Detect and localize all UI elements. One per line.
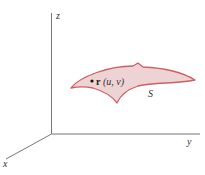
surface-diagram: z y x r (u, v) S — [0, 0, 205, 175]
x-axis-label: x — [2, 158, 8, 169]
x-axis — [6, 134, 52, 159]
z-axis-label: z — [55, 10, 60, 21]
point-marker — [90, 79, 93, 82]
vector-r-label: r — [96, 76, 101, 87]
y-axis-label: y — [186, 136, 192, 147]
surface-s — [71, 63, 195, 103]
surface-label: S — [148, 88, 153, 99]
point-args-label: (u, v) — [103, 76, 125, 88]
